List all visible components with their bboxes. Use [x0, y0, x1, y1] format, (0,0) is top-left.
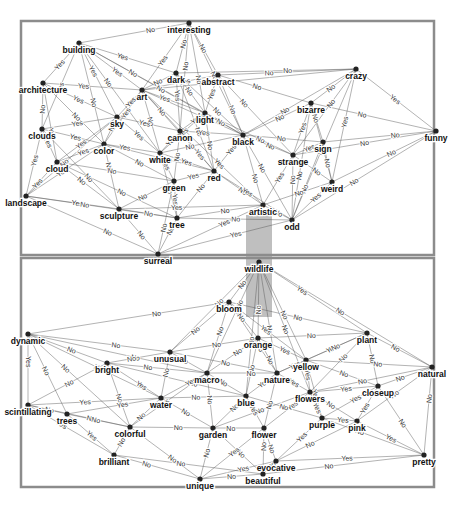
edge-label: No: [357, 110, 367, 119]
node-label: bizarre: [297, 105, 325, 115]
node-label: purple: [309, 420, 335, 430]
node-label: natural: [418, 369, 446, 379]
edge-label: No: [265, 141, 276, 151]
edge-art-light: [142, 90, 205, 113]
edge-label: No: [182, 61, 190, 71]
node-label: white: [148, 155, 171, 165]
node-colorful[interactable]: colorful: [114, 424, 145, 439]
node-closeup[interactable]: closeup: [362, 383, 394, 398]
edge-label: Yes: [71, 119, 84, 128]
edge-label: No: [425, 394, 433, 404]
edge-label: No: [395, 373, 406, 383]
node-artistic[interactable]: artistic: [249, 202, 277, 217]
node-macro[interactable]: macro: [194, 370, 220, 385]
node-weird[interactable]: weird: [320, 179, 343, 194]
edge-label: No: [232, 347, 243, 358]
edge-label: No: [198, 43, 209, 54]
node-unusual[interactable]: unusual: [154, 349, 187, 364]
edge-label: Yes: [157, 53, 170, 67]
node-blue[interactable]: blue: [237, 393, 255, 408]
edge-label: No: [80, 200, 90, 208]
node-funny[interactable]: funny: [424, 128, 447, 143]
edge-label: Yes: [69, 132, 82, 142]
edge-label: No: [180, 407, 191, 418]
node-bizarre[interactable]: bizarre: [297, 100, 325, 115]
node-brilliant[interactable]: brilliant: [99, 452, 130, 467]
node-crazy[interactable]: crazy: [345, 66, 367, 81]
edge-label: No: [89, 97, 98, 107]
node-building[interactable]: building: [62, 40, 95, 55]
edge-label: No: [295, 170, 303, 180]
node-label: water: [149, 400, 173, 410]
node-odd[interactable]: odd: [284, 217, 300, 232]
node-interesting[interactable]: interesting: [167, 20, 210, 35]
node-label: garden: [199, 430, 227, 440]
edge-label: No: [102, 227, 113, 237]
edge-label: No: [220, 207, 230, 215]
edge-label: No: [103, 77, 114, 88]
node-label: wildlife: [244, 264, 274, 274]
network-graph-canvas: NoNoNoYesNoNoNoYesYesYesYesYesNoNoNoNoNo…: [0, 0, 460, 506]
node-purple[interactable]: purple: [309, 415, 335, 430]
node-flower[interactable]: flower: [251, 425, 277, 440]
edge-label: Yes: [274, 170, 286, 184]
edge-label: No: [373, 360, 382, 367]
edge-label: No: [277, 134, 287, 142]
edge-label: No: [311, 166, 322, 177]
node-label: odd: [284, 222, 300, 232]
node-label: scintillating: [4, 407, 51, 417]
node-pretty[interactable]: pretty: [412, 452, 436, 467]
node-beautiful[interactable]: beautiful: [245, 471, 280, 486]
node-label: surreal: [144, 256, 172, 266]
node-label: crazy: [345, 71, 367, 81]
node-label: orange: [244, 340, 273, 350]
node-color[interactable]: color: [94, 141, 115, 156]
node-label: pink: [348, 423, 366, 433]
edge-label: Yes: [340, 385, 352, 393]
edge-label: No: [323, 158, 332, 168]
edge-label: No: [111, 341, 121, 349]
node-white[interactable]: white: [148, 150, 171, 165]
node-bright[interactable]: bright: [95, 360, 119, 375]
node-label: sculpture: [100, 211, 139, 221]
edge-label: Yes: [72, 94, 86, 105]
node-flowers[interactable]: flowers: [295, 389, 325, 404]
node-plant[interactable]: plant: [357, 330, 377, 345]
edge-label: No: [39, 105, 46, 114]
edge-label: No: [137, 192, 148, 202]
edge-label: No: [107, 167, 117, 175]
network-diagram: NoNoNoYesNoNoNoYesYesYesYesYesNoNoNoNoNo…: [0, 0, 460, 506]
edge-label: No: [397, 418, 408, 429]
edge-label: No: [63, 378, 74, 388]
edge-label: Yes: [206, 87, 216, 101]
edge-label: No: [206, 141, 214, 151]
edge-label: No: [162, 368, 171, 378]
node-tree[interactable]: tree: [169, 215, 185, 230]
node-label: cloud: [46, 164, 69, 174]
node-trees[interactable]: trees: [57, 411, 78, 426]
node-scintillating[interactable]: scintillating: [4, 402, 51, 417]
edge-label: No: [252, 82, 263, 91]
node-dynamic[interactable]: dynamic: [11, 331, 46, 346]
edge-label: No: [360, 139, 370, 147]
edge-label: No: [41, 365, 51, 376]
edge-label: No: [212, 340, 222, 348]
edge-label: No: [390, 343, 401, 353]
edge-label: No: [228, 104, 238, 115]
node-unique[interactable]: unique: [186, 476, 214, 491]
edge-label: Yes: [79, 398, 91, 406]
edge-label: No: [324, 462, 334, 470]
edge-label: Yes: [389, 93, 403, 106]
node-landscape[interactable]: landscape: [5, 193, 47, 208]
edge-label: No: [255, 305, 262, 314]
edge-label: Yes: [229, 229, 242, 239]
node-strange[interactable]: strange: [278, 152, 309, 167]
node-label: weird: [320, 184, 343, 194]
node-red[interactable]: red: [207, 168, 220, 183]
node-surreal[interactable]: surreal: [144, 251, 172, 266]
node-green[interactable]: green: [162, 178, 185, 193]
edge-label: No: [251, 173, 260, 184]
edge-label: No: [348, 176, 359, 187]
node-label: clouds: [28, 131, 56, 141]
node-nature[interactable]: nature: [264, 370, 290, 385]
